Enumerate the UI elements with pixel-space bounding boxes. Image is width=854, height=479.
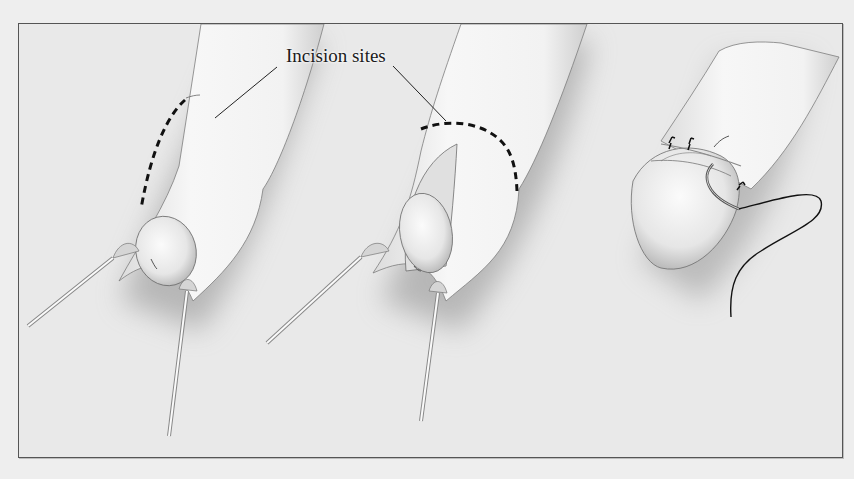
- panel-2: [267, 24, 591, 421]
- surgical-illustration: [19, 24, 842, 457]
- panel-1: [28, 24, 324, 436]
- retractor-probe: [28, 258, 113, 326]
- figure-frame: Incision sites: [18, 23, 843, 458]
- incision-sites-label: Incision sites: [286, 45, 386, 67]
- panel-3: [631, 42, 839, 317]
- retractor-probe: [267, 257, 361, 343]
- figure-page: Incision sites: [0, 0, 854, 479]
